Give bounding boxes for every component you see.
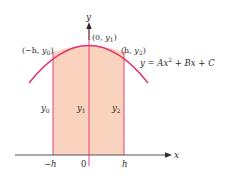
height-label-y0: y0 xyxy=(40,103,50,114)
tick-label-neg-h: −h xyxy=(44,159,57,169)
y-axis-label: y xyxy=(85,12,92,22)
y-axis-arrow-icon xyxy=(86,22,91,29)
tick-label-h: h xyxy=(122,159,127,169)
x-axis-label: x xyxy=(174,150,179,160)
shaded-region xyxy=(53,46,124,155)
x-axis-arrow-icon xyxy=(165,152,172,157)
parabola-area-diagram: y x −h 0 h (−h, y0) (0, y1) (h, y2) y = … xyxy=(0,0,233,181)
equation-label: y = Ax2 + Bx + C xyxy=(139,56,215,68)
point-label-left: (−h, y0) xyxy=(22,46,54,56)
tick-label-zero: 0 xyxy=(81,159,86,169)
point-label-right: (h, y2) xyxy=(121,46,146,56)
point-label-mid: (0, y1) xyxy=(92,33,117,43)
